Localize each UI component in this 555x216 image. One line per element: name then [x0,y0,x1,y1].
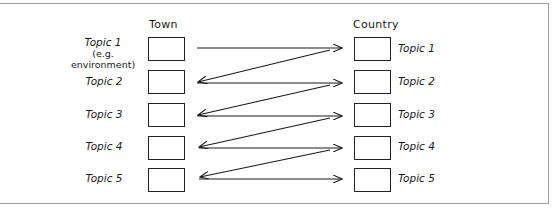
arrow-country1-to-town2 [198,50,330,82]
arrow-country4-to-town5 [200,150,330,177]
arrow-layer [0,0,555,216]
arrow-country2-to-town3 [198,85,330,115]
arrow-country3-to-town4 [199,118,330,147]
